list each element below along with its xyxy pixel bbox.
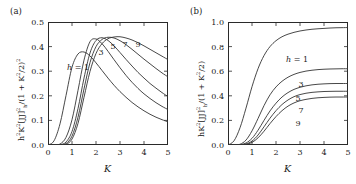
panel-b-tag: (b)	[190, 6, 202, 16]
series-h-1	[228, 28, 348, 145]
panel-b-y-tick-0: 0.0	[198, 141, 224, 150]
panel-b-x-axis-title: K	[284, 163, 291, 174]
panel-b-curves	[228, 22, 348, 145]
panel-b-x-tick-0: 0	[225, 148, 230, 157]
panel-a-x-tick-2: 2	[93, 148, 98, 157]
series-9	[228, 97, 348, 145]
panel-b: (b) hK2[JJ]2h/(1 + K2/2) 0.00.20.40.60.8…	[178, 0, 356, 184]
panel-b-x-tick-2: 2	[273, 148, 278, 157]
panel-a-x-tick-5: 5	[165, 148, 170, 157]
panel-a-curve-label-1: 3	[98, 48, 103, 57]
panel-a-y-tick-3: 0.3	[18, 67, 44, 76]
series-7	[228, 91, 348, 145]
panel-b-curve-label-0: h = 1	[286, 55, 308, 64]
panel-a-x-tick-3: 3	[117, 148, 122, 157]
panel-a-x-tick-0: 0	[45, 148, 50, 157]
panel-b-curve-label-2: 5	[295, 94, 300, 103]
panel-b-curve-label-4: 9	[295, 119, 300, 128]
panel-a-x-axis-title: K	[104, 163, 111, 174]
panel-a-series-lines	[48, 37, 168, 145]
panel-a-y-tick-4: 0.4	[18, 42, 44, 51]
series-5	[48, 38, 168, 145]
panel-b-x-tick-1: 1	[249, 148, 254, 157]
panel-b-y-tick-3: 0.6	[198, 67, 224, 76]
panel-a-y-tick-5: 0.5	[18, 18, 44, 27]
panel-a-curve-label-2: 5	[110, 42, 115, 51]
series-3	[48, 39, 168, 145]
panel-a-y-tick-2: 0.2	[18, 91, 44, 100]
series-5	[228, 83, 348, 145]
panel-b-y-tick-2: 0.4	[198, 91, 224, 100]
series-9	[48, 37, 168, 145]
panel-a-plot-area	[48, 22, 168, 145]
panel-a: (a) h2K2[JJ]2h/(1 + K2/2)2 0.00.10.20.30…	[0, 0, 178, 184]
panel-b-curve-label-1: 3	[298, 80, 303, 89]
panel-a-y-tick-0: 0.0	[18, 141, 44, 150]
panel-b-plot-area	[228, 22, 348, 145]
panel-b-x-tick-4: 4	[321, 148, 326, 157]
panel-b-y-tick-1: 0.2	[198, 116, 224, 125]
panel-a-x-tick-4: 4	[141, 148, 146, 157]
panel-a-y-tick-1: 0.1	[18, 116, 44, 125]
panel-b-y-tick-5: 1.0	[198, 18, 224, 27]
panel-a-curve-label-4: 9	[135, 40, 140, 49]
series-7	[48, 37, 168, 145]
two-panel-figure: (a) h2K2[JJ]2h/(1 + K2/2)2 0.00.10.20.30…	[0, 0, 356, 184]
panel-b-x-tick-5: 5	[345, 148, 350, 157]
panel-a-tag: (a)	[10, 6, 22, 16]
panel-b-x-tick-3: 3	[297, 148, 302, 157]
panel-b-curve-label-3: 7	[298, 106, 303, 115]
panel-a-curve-label-3: 7	[122, 40, 127, 49]
panel-a-curve-label-0: h = 1	[67, 63, 89, 72]
panel-b-y-tick-4: 0.8	[198, 42, 224, 51]
panel-a-curves	[48, 22, 168, 145]
panel-b-series-lines	[228, 28, 348, 145]
panel-a-x-tick-1: 1	[69, 148, 74, 157]
